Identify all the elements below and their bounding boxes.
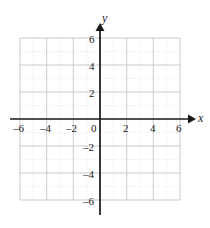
x-tick-label-4: 4 <box>150 123 156 134</box>
x-axis-arrow-icon <box>188 115 196 124</box>
y-tick-label-4: 4 <box>89 61 95 72</box>
x-axis <box>10 115 196 124</box>
coordinate-grid-svg <box>0 0 210 228</box>
x-tick-label--6: –6 <box>13 123 24 134</box>
x-tick-label-2: 2 <box>123 123 129 134</box>
y-axis-name: y <box>102 12 107 24</box>
x-axis-name: x <box>198 112 203 124</box>
coordinate-plane-figure: –6 –4 –2 2 4 6 0 6 4 2 –2 –4 –6 x y <box>0 0 210 228</box>
x-tick-label-6: 6 <box>176 123 182 134</box>
y-tick-label-2: 2 <box>89 88 95 99</box>
y-tick-label--4: –4 <box>83 169 94 180</box>
origin-label: 0 <box>91 123 97 134</box>
y-tick-label--6: –6 <box>83 196 94 207</box>
x-tick-label--2: –2 <box>66 123 77 134</box>
y-tick-label--2: –2 <box>83 142 94 153</box>
y-tick-label-6: 6 <box>89 34 95 45</box>
x-tick-label--4: –4 <box>40 123 51 134</box>
